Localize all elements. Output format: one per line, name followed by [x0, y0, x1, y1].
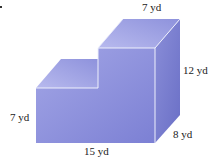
- label-top-width: 7 yd: [142, 2, 161, 13]
- label-height: 12 yd: [183, 65, 208, 76]
- lower-top-face: [36, 59, 98, 88]
- label-depth: 8 yd: [173, 129, 192, 140]
- label-length: 15 yd: [84, 146, 109, 157]
- label-step-height: 7 yd: [10, 112, 29, 123]
